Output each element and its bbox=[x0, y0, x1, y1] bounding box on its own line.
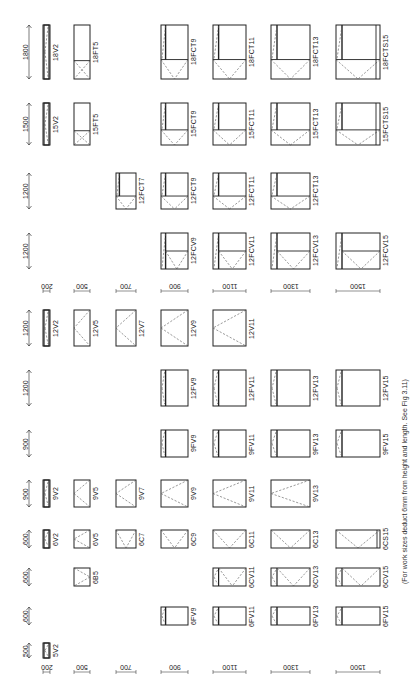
height-dimension-label: 1200 bbox=[22, 243, 29, 259]
window-code-label: 12FCV9 bbox=[190, 237, 197, 264]
window-code-label: 9FV15 bbox=[382, 433, 389, 455]
window-code-label: 15FT5 bbox=[92, 114, 99, 135]
window-code-label: 12V9 bbox=[190, 320, 197, 337]
window-code-label: 12V5 bbox=[92, 320, 99, 337]
window-code-label: 9FV13 bbox=[312, 433, 319, 455]
window-code-label: 12FV13 bbox=[312, 375, 319, 401]
window-code-label: 12FCT11 bbox=[248, 176, 255, 206]
window-code-label: 9FV11 bbox=[248, 433, 255, 454]
window-code-label: 15FCT9 bbox=[190, 111, 197, 138]
width-dimension-label: 200 bbox=[37, 283, 57, 290]
window-code-label: 18FCT11 bbox=[248, 37, 255, 67]
window-code-label: 12FV15 bbox=[382, 375, 389, 401]
window-code-label: 12V2 bbox=[52, 320, 59, 337]
window-code-label: 18V2 bbox=[52, 44, 59, 61]
window-code-label: 9V5 bbox=[92, 487, 99, 500]
window-code-label: 9V7 bbox=[138, 487, 145, 500]
window-code-label: 12FCV11 bbox=[248, 236, 255, 266]
window-code-label: 6FV11 bbox=[248, 606, 255, 627]
window-code-label: 12FCV15 bbox=[382, 235, 389, 266]
window-code-label: 6B5 bbox=[92, 571, 99, 584]
height-dimension-label: 1200 bbox=[22, 320, 29, 336]
window-code-label: 6V5 bbox=[92, 533, 99, 546]
window-code-label: 6C11 bbox=[248, 531, 255, 548]
window-code-label: 12FCT9 bbox=[190, 178, 197, 205]
window-code-label: 12FCT7 bbox=[138, 178, 145, 205]
window-code-label: 12V7 bbox=[138, 320, 145, 337]
window-code-label: 12FV11 bbox=[248, 376, 255, 401]
window-code-label: 6V2 bbox=[52, 533, 59, 546]
window-code-label: 15FCT13 bbox=[312, 109, 319, 140]
footnote: (For work sizes deduct 6mm from height a… bbox=[401, 379, 408, 584]
window-code-label: 6C9 bbox=[190, 532, 197, 545]
window-code-label: 18FCT13 bbox=[312, 37, 319, 68]
width-dimension-label: 1300 bbox=[281, 664, 301, 671]
window-code-label: 12V11 bbox=[248, 318, 255, 339]
window-code-label: 6C7 bbox=[138, 532, 145, 545]
width-dimension-label: 1500 bbox=[348, 664, 368, 671]
height-dimension-label: 600 bbox=[22, 533, 29, 545]
height-dimension-label: 600 bbox=[22, 571, 29, 583]
height-dimension-label: 900 bbox=[22, 438, 29, 450]
window-code-label: 5V2 bbox=[52, 644, 59, 657]
window-code-label: 6FV15 bbox=[382, 605, 389, 627]
window-code-label: 6CV13 bbox=[312, 566, 319, 588]
width-dimension-label: 1100 bbox=[220, 283, 240, 290]
width-dimension-label: 700 bbox=[116, 283, 136, 290]
width-dimension-label: 500 bbox=[72, 283, 92, 290]
window-code-label: 15FCTS15 bbox=[382, 106, 389, 141]
window-code-label: 9FV9 bbox=[190, 435, 197, 453]
window-code-label: 18FCT9 bbox=[190, 39, 197, 66]
window-code-label: 9V11 bbox=[248, 486, 255, 503]
height-dimension-label: 1500 bbox=[22, 116, 29, 132]
height-dimension-label: 1200 bbox=[22, 183, 29, 199]
window-code-label: 9V2 bbox=[52, 487, 59, 500]
window-code-label: 18FCTS15 bbox=[382, 34, 389, 69]
window-code-label: 9V13 bbox=[312, 485, 319, 502]
width-dimension-label: 700 bbox=[116, 664, 136, 671]
width-dimension-label: 500 bbox=[72, 664, 92, 671]
window-drawings bbox=[0, 0, 418, 699]
width-dimension-label: 1100 bbox=[220, 664, 240, 671]
width-dimension-label: 1300 bbox=[281, 283, 301, 290]
height-dimension-label: 900 bbox=[22, 488, 29, 500]
window-code-label: 15V2 bbox=[52, 116, 59, 133]
window-code-label: 18FT5 bbox=[92, 42, 99, 63]
width-dimension-label: 1500 bbox=[348, 283, 368, 290]
window-code-label: 12FCT13 bbox=[312, 176, 319, 207]
width-dimension-label: 900 bbox=[165, 664, 185, 671]
window-code-label: 6FV13 bbox=[312, 605, 319, 627]
window-code-label: 6C13 bbox=[312, 530, 319, 548]
window-code-label: 6CV15 bbox=[382, 566, 389, 588]
window-code-label: 6CS15 bbox=[382, 528, 389, 550]
window-code-label: 12FCV13 bbox=[312, 235, 319, 266]
height-dimension-label: 600 bbox=[22, 610, 29, 622]
window-code-label: 9V9 bbox=[190, 487, 197, 500]
height-dimension-label: 1200 bbox=[22, 380, 29, 396]
window-code-label: 6FV9 bbox=[190, 607, 197, 625]
window-code-label: 6CV11 bbox=[248, 566, 255, 588]
height-dimension-label: 1800 bbox=[22, 44, 29, 60]
window-code-label: 15FCT11 bbox=[248, 109, 255, 139]
height-dimension-label: 500 bbox=[22, 645, 29, 657]
width-dimension-label: 900 bbox=[165, 283, 185, 290]
window-code-label: 12FV9 bbox=[190, 377, 197, 399]
width-dimension-label: 200 bbox=[37, 664, 57, 671]
window-types-chart: 1800150012001200120012009009006006006005… bbox=[0, 0, 418, 699]
